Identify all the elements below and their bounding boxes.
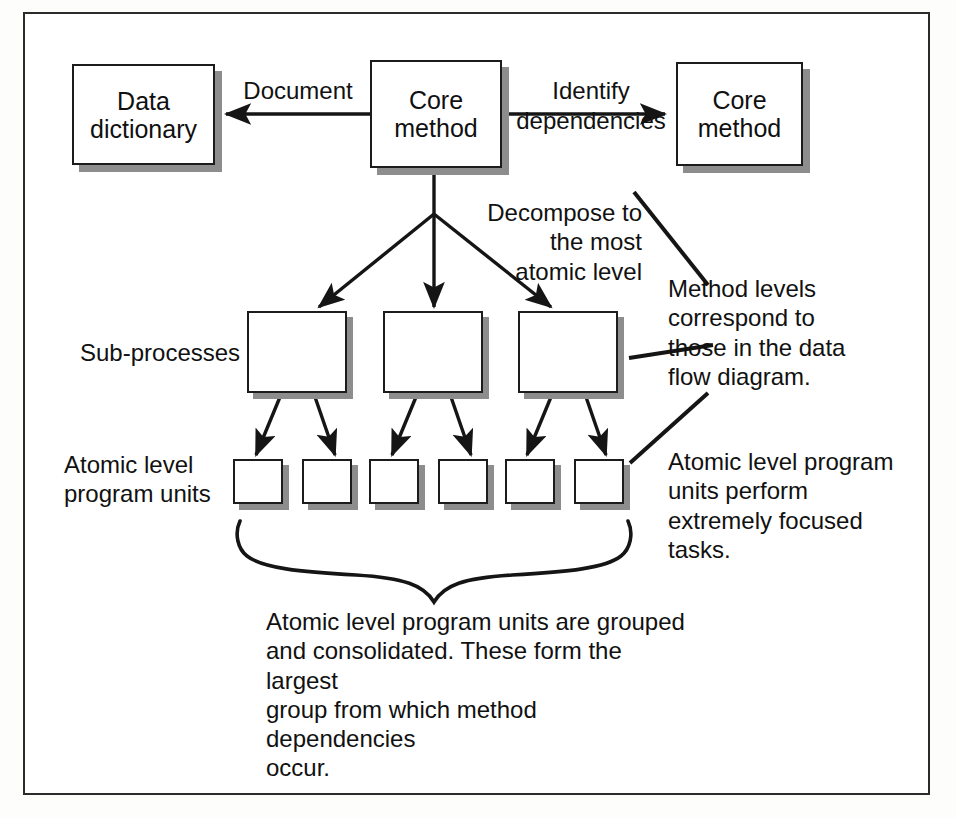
node-data-dictionary[interactable]: Data dictionary — [72, 64, 215, 165]
node-core-method-right[interactable]: Core method — [676, 62, 803, 166]
caption-grouping: Atomic level program units are grouped a… — [266, 607, 686, 783]
diagram-page: Data dictionary Core method Core method … — [0, 0, 956, 818]
node-sub-process-3[interactable] — [518, 311, 618, 393]
annotation-decompose: Decompose to the most atomic level — [440, 198, 642, 286]
row-label-atomic-units: Atomic level program units — [64, 450, 274, 509]
edge-label-document: Document — [228, 76, 368, 106]
node-core-method-right-label: Core method — [694, 86, 785, 142]
node-atomic-unit-3[interactable] — [369, 459, 419, 504]
annotation-method-levels: Method levels correspond to those in the… — [668, 274, 926, 391]
node-sub-process-2[interactable] — [383, 311, 483, 393]
node-atomic-unit-4[interactable] — [438, 459, 488, 504]
node-data-dictionary-label: Data dictionary — [86, 87, 201, 143]
node-atomic-unit-6[interactable] — [574, 459, 624, 504]
node-atomic-unit-2[interactable] — [302, 459, 352, 504]
edge-label-identify-dependencies: Identify dependencies — [510, 76, 672, 136]
node-core-method-center[interactable]: Core method — [370, 60, 502, 168]
node-atomic-unit-5[interactable] — [505, 459, 555, 504]
node-core-method-center-label: Core method — [390, 86, 481, 142]
annotation-atomic-units-perform: Atomic level program units perform extre… — [668, 447, 930, 564]
row-label-sub-processes: Sub-processes — [80, 338, 290, 367]
